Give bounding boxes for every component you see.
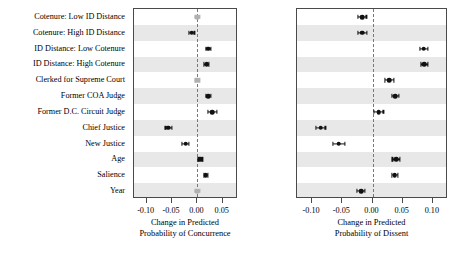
x-axis-title-line: Change in Predicted bbox=[133, 218, 237, 229]
row-band bbox=[134, 183, 236, 198]
x-tick-label: 0.00 bbox=[189, 206, 203, 216]
x-axis-title-line: Probability of Concurrence bbox=[133, 229, 237, 240]
plot-area-dissent bbox=[296, 8, 447, 198]
x-tick-label: -0.10 bbox=[303, 206, 320, 216]
x-tick bbox=[311, 198, 312, 203]
estimate-point bbox=[210, 110, 215, 115]
row-band bbox=[134, 88, 236, 104]
x-tick bbox=[146, 198, 147, 203]
row-band bbox=[134, 120, 236, 136]
estimate-point bbox=[422, 46, 427, 51]
x-axis-title-line: Change in Predicted bbox=[296, 218, 447, 229]
x-tick bbox=[402, 198, 403, 203]
x-tick-label: 0.00 bbox=[364, 206, 378, 216]
x-tick bbox=[222, 198, 223, 203]
zero-reference-line bbox=[373, 9, 374, 197]
category-label: Age bbox=[111, 154, 125, 163]
ci-cap bbox=[398, 94, 399, 98]
category-label: Cotenure: High ID Distance bbox=[33, 27, 125, 36]
zero-reference-line bbox=[197, 9, 198, 197]
category-label: Former D.C. Circuit Judge bbox=[37, 106, 125, 115]
row-band bbox=[297, 152, 446, 168]
coefficient-plot-figure: Cotenure: Low ID DistanceCotenure: High … bbox=[0, 0, 451, 259]
category-label: New Justice bbox=[85, 138, 125, 147]
x-tick-label: 0.05 bbox=[215, 206, 229, 216]
estimate-point bbox=[203, 173, 208, 178]
row-band bbox=[297, 183, 446, 198]
panel-concurrence: -0.10-0.050.000.05 Change in PredictedPr… bbox=[133, 8, 237, 198]
ci-cap bbox=[365, 189, 366, 193]
category-label: Salience bbox=[97, 170, 125, 179]
category-label: ID Distance: High Cotenure bbox=[33, 59, 125, 68]
estimate-point bbox=[393, 173, 398, 178]
estimate-point bbox=[376, 110, 381, 115]
row-band bbox=[134, 57, 236, 73]
ci-cap bbox=[427, 62, 428, 66]
category-label: ID Distance: Low Cotenure bbox=[34, 43, 125, 52]
estimate-point bbox=[195, 78, 200, 83]
x-tick bbox=[432, 198, 433, 203]
x-tick-label: 0.05 bbox=[395, 206, 409, 216]
x-axis-title-dissent: Change in PredictedProbability of Dissen… bbox=[296, 218, 447, 239]
estimate-point bbox=[198, 157, 203, 162]
estimate-point bbox=[190, 30, 195, 35]
ci-cap bbox=[216, 110, 217, 114]
x-tick-labels-concurrence: -0.10-0.050.000.05 bbox=[133, 206, 237, 218]
ci-cap bbox=[394, 78, 395, 82]
estimate-point bbox=[394, 157, 399, 162]
estimate-point bbox=[360, 15, 365, 20]
estimate-point bbox=[206, 46, 211, 51]
estimate-point bbox=[422, 62, 427, 67]
ci-cap bbox=[366, 15, 367, 19]
row-band bbox=[297, 88, 446, 104]
x-tick-label: -0.05 bbox=[333, 206, 350, 216]
estimate-point bbox=[183, 141, 188, 146]
ci-cap bbox=[384, 78, 385, 82]
estimate-point bbox=[166, 125, 171, 130]
ci-cap bbox=[383, 110, 384, 114]
x-tick-label: -0.10 bbox=[137, 206, 154, 216]
x-axis-title-concurrence: Change in PredictedProbability of Concur… bbox=[133, 218, 237, 239]
x-axis-concurrence bbox=[133, 198, 237, 206]
plot-area-concurrence bbox=[133, 8, 237, 198]
x-tick bbox=[372, 198, 373, 203]
ci-cap bbox=[344, 141, 345, 145]
ci-cap bbox=[357, 15, 358, 19]
estimate-point bbox=[336, 141, 341, 146]
ci-cap bbox=[207, 110, 208, 114]
ci-cap bbox=[332, 141, 333, 145]
estimate-point bbox=[393, 94, 398, 99]
ci-cap bbox=[419, 46, 420, 50]
x-tick-label: -0.05 bbox=[163, 206, 180, 216]
x-tick bbox=[196, 198, 197, 203]
category-label: Chief Justice bbox=[82, 122, 125, 131]
x-tick-label: 0.10 bbox=[425, 206, 439, 216]
x-tick bbox=[341, 198, 342, 203]
x-axis-title-line: Probability of Dissent bbox=[296, 229, 447, 240]
ci-cap bbox=[427, 46, 428, 50]
panel-dissent: -0.10-0.050.000.050.10 Change in Predict… bbox=[296, 8, 447, 198]
ci-cap bbox=[366, 31, 367, 35]
ci-cap bbox=[315, 126, 316, 130]
ci-cap bbox=[357, 31, 358, 35]
estimate-point bbox=[206, 94, 211, 99]
estimate-point bbox=[359, 189, 364, 194]
x-tick-labels-dissent: -0.10-0.050.000.050.10 bbox=[296, 206, 447, 218]
category-label: Year bbox=[110, 186, 125, 195]
estimate-point bbox=[204, 62, 209, 67]
x-tick bbox=[171, 198, 172, 203]
row-band bbox=[134, 152, 236, 168]
row-band bbox=[297, 25, 446, 41]
ci-cap bbox=[189, 141, 190, 145]
ci-cap bbox=[373, 110, 374, 114]
estimate-point bbox=[387, 78, 392, 83]
category-label: Clerked for Supreme Court bbox=[36, 75, 125, 84]
x-axis-dissent bbox=[296, 198, 447, 206]
estimate-point bbox=[318, 125, 323, 130]
category-label: Former COA Judge bbox=[61, 91, 125, 100]
category-axis-labels: Cotenure: Low ID DistanceCotenure: High … bbox=[0, 8, 128, 198]
ci-cap bbox=[399, 157, 400, 161]
estimate-point bbox=[360, 30, 365, 35]
row-band bbox=[134, 25, 236, 41]
estimate-point bbox=[195, 189, 200, 194]
